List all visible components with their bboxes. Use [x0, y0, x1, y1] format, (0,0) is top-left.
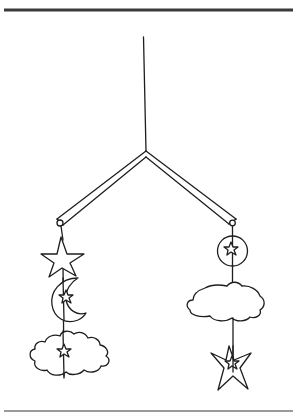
mobile-drawing — [0, 0, 297, 414]
mobile-illustration: Hanging mobile with stars, moon and clou… — [0, 0, 297, 414]
star-icon — [211, 346, 251, 390]
right-arm — [146, 151, 236, 226]
left-arm-ring-icon — [57, 220, 63, 226]
left-arm — [57, 151, 146, 226]
right-strand — [187, 226, 264, 390]
cloud-icon — [30, 331, 109, 375]
right-arm-ring-icon — [230, 220, 236, 226]
cloud-icon — [187, 282, 264, 321]
left-strand — [30, 226, 109, 378]
hanging-string — [144, 37, 147, 151]
